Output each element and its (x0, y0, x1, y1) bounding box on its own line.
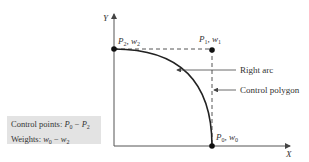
control-polygon-callout: Control polygon (240, 85, 300, 95)
control-point-p0 (209, 143, 215, 149)
legend-w-to-sub: 2 (67, 139, 70, 145)
legend-sep-1: − (73, 119, 82, 129)
legend-control-points: Control points: P0 − P2 (11, 118, 101, 133)
label-p0: P0, w0 (215, 132, 238, 143)
x-axis-label: X (285, 149, 292, 159)
legend-sep-2: − (52, 134, 61, 144)
right-arc-curve (114, 49, 212, 146)
label-p2: P2, w2 (117, 36, 140, 47)
control-point-p1 (209, 47, 215, 53)
legend-control-points-label: Control points: (11, 119, 64, 129)
label-p1: P1, w1 (198, 34, 221, 45)
y-axis-label: Y (103, 13, 109, 23)
legend-p-to-sub: 2 (87, 124, 90, 130)
legend-weights-label: Weights: (11, 134, 43, 144)
legend-weights: Weights: w0 − w2 (11, 133, 101, 148)
control-point-p2 (111, 46, 117, 52)
control-polygon (114, 49, 212, 146)
right-arc-callout: Right arc (240, 65, 273, 75)
legend-box: Control points: P0 − P2 Weights: w0 − w2 (7, 116, 101, 144)
